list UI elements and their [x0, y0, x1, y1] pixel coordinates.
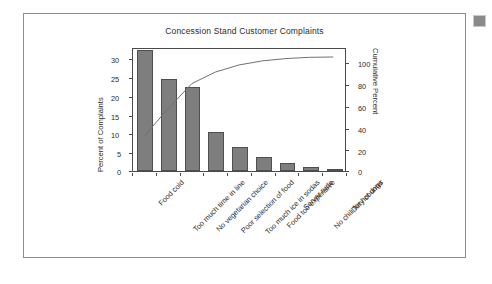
y2-tick-mark [346, 107, 349, 108]
y2-tick-mark [346, 150, 349, 151]
y2-tick-label: 20 [358, 148, 366, 157]
cumulative-polyline [145, 57, 333, 135]
y-tick-label: 15 [111, 113, 119, 122]
y2-tick-mark [346, 171, 349, 172]
y2-tick-label: 100 [358, 60, 370, 69]
x-tick-mark [156, 173, 157, 176]
x-tick-mark [227, 173, 228, 176]
x-tick-mark [298, 173, 299, 176]
gray-square-artifact [473, 15, 486, 27]
x-tick-mark [180, 173, 181, 176]
y2-tick-mark [346, 63, 349, 64]
cumulative-line [133, 49, 345, 171]
chart-title: Concession Stand Customer Complaints [23, 26, 466, 36]
screenshot-root: Concession Stand Customer Complaints Per… [0, 0, 492, 284]
y2-tick-label: 40 [358, 126, 366, 135]
y-tick-label: 10 [111, 131, 119, 140]
x-tick-mark [275, 173, 276, 176]
y-tick-label: 30 [111, 56, 119, 65]
x-tick-mark [203, 173, 204, 176]
y2-tick-label: 60 [358, 104, 366, 113]
y-tick-label: 0 [117, 168, 121, 177]
plot-area [132, 48, 346, 172]
y2-tick-mark [346, 129, 349, 130]
y-axis-title: Percent of Complaints [96, 97, 105, 172]
y2-tick-label: 0 [358, 168, 362, 177]
x-tick-mark [322, 173, 323, 176]
y-tick-label: 25 [111, 75, 119, 84]
y2-axis-title: Cumulative Percent [371, 48, 380, 114]
x-tick-mark [251, 173, 252, 176]
x-tick-mark [132, 173, 133, 176]
y2-tick-mark [346, 85, 349, 86]
x-tick-mark [346, 173, 347, 176]
y-tick-label: 20 [111, 94, 119, 103]
y-tick-label: 5 [117, 150, 121, 159]
y2-tick-label: 80 [358, 82, 366, 91]
